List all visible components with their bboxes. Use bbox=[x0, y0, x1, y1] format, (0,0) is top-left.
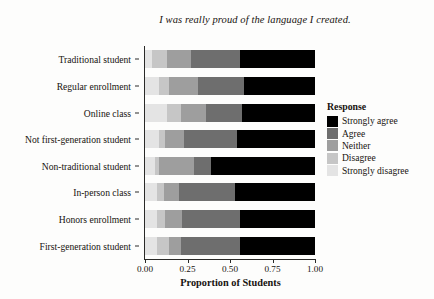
legend-swatch bbox=[327, 165, 338, 176]
x-tick-mark bbox=[230, 260, 231, 263]
bar-segment bbox=[159, 130, 166, 148]
x-tick-label: 0.25 bbox=[179, 264, 195, 274]
y-tick-mark bbox=[135, 85, 139, 86]
y-tick-mark bbox=[135, 139, 139, 140]
y-tick-label: Regular enrollment bbox=[0, 80, 131, 91]
x-axis-ticks: 0.000.250.500.751.00 bbox=[145, 260, 316, 276]
bar-row bbox=[145, 210, 315, 228]
bar-row bbox=[145, 104, 315, 122]
bar-row bbox=[145, 157, 315, 175]
bar-segment bbox=[165, 130, 184, 148]
bar-segment bbox=[240, 210, 315, 228]
y-tick-label: First-generation student bbox=[0, 240, 131, 251]
legend-swatch bbox=[327, 140, 338, 151]
bar-segment bbox=[145, 157, 155, 175]
x-tick-mark bbox=[315, 260, 316, 263]
legend-item[interactable]: Disagree bbox=[327, 152, 433, 164]
x-tick-label: 1.00 bbox=[307, 264, 323, 274]
y-tick-mark bbox=[135, 192, 139, 193]
bar-segment bbox=[164, 183, 179, 201]
legend-label: Neither bbox=[342, 141, 371, 151]
bar-segment bbox=[182, 210, 240, 228]
y-tick-label: Honors enrollment bbox=[0, 214, 131, 225]
bar-segment bbox=[235, 183, 315, 201]
bar-row bbox=[145, 130, 315, 148]
x-tick-label: 0.50 bbox=[222, 264, 238, 274]
legend: Response Strongly agreeAgreeNeitherDisag… bbox=[327, 101, 433, 177]
bar-segment bbox=[145, 104, 167, 122]
legend-swatch bbox=[327, 116, 338, 127]
bar-segment bbox=[159, 77, 169, 95]
bar-segment bbox=[181, 104, 207, 122]
bar-segment bbox=[157, 237, 169, 255]
bar-segment bbox=[145, 77, 159, 95]
bar-segment bbox=[240, 237, 315, 255]
x-tick-mark bbox=[273, 260, 274, 263]
plot-area bbox=[145, 46, 315, 259]
y-tick-mark bbox=[135, 219, 139, 220]
y-tick-mark bbox=[135, 165, 139, 166]
bar-segment bbox=[181, 237, 241, 255]
bar-segment bbox=[167, 50, 191, 68]
bar-segment bbox=[145, 183, 157, 201]
bar-row bbox=[145, 50, 315, 68]
legend-item[interactable]: Strongly disagree bbox=[327, 165, 433, 177]
bar-segment bbox=[191, 50, 240, 68]
legend-swatch bbox=[327, 153, 338, 164]
y-tick-label: Non-traditional student bbox=[0, 160, 131, 171]
bar-segment bbox=[169, 237, 181, 255]
bar-segment bbox=[145, 210, 157, 228]
bar-segment bbox=[157, 210, 166, 228]
y-tick-label: Traditional student bbox=[0, 54, 131, 65]
bar-row bbox=[145, 77, 315, 95]
y-tick-label: Online class bbox=[0, 107, 131, 118]
x-axis-title: Proportion of Students bbox=[145, 277, 316, 288]
bar-segment bbox=[179, 183, 235, 201]
y-tick-label: In-person class bbox=[0, 187, 131, 198]
x-tick-mark bbox=[188, 260, 189, 263]
bar-segment bbox=[169, 77, 198, 95]
y-tick-mark bbox=[135, 112, 139, 113]
legend-item[interactable]: Strongly agree bbox=[327, 115, 433, 127]
bar-segment bbox=[240, 50, 315, 68]
x-tick-mark bbox=[145, 260, 146, 263]
legend-swatch bbox=[327, 128, 338, 139]
bar-segment bbox=[145, 237, 157, 255]
bar-segment bbox=[157, 183, 164, 201]
y-tick-mark bbox=[135, 59, 139, 60]
legend-label: Disagree bbox=[342, 153, 376, 163]
bar-segment bbox=[206, 104, 242, 122]
bar-segment bbox=[211, 157, 315, 175]
bar-segment bbox=[194, 157, 211, 175]
bar-segment bbox=[242, 104, 315, 122]
bar-row bbox=[145, 237, 315, 255]
legend-title: Response bbox=[327, 101, 433, 112]
bar-segment bbox=[167, 104, 181, 122]
bar-segment bbox=[152, 50, 167, 68]
bar-segment bbox=[198, 77, 244, 95]
chart-title: I was really proud of the language I cre… bbox=[140, 14, 370, 25]
legend-label: Strongly agree bbox=[342, 116, 398, 126]
bar-segment bbox=[237, 130, 315, 148]
bar-segment bbox=[244, 77, 315, 95]
y-tick-label: Not first-generation student bbox=[0, 134, 131, 145]
legend-item[interactable]: Agree bbox=[327, 127, 433, 139]
x-tick-label: 0.75 bbox=[264, 264, 280, 274]
bar-segment bbox=[159, 157, 195, 175]
y-axis-labels: Traditional studentRegular enrollmentOnl… bbox=[0, 46, 140, 259]
x-tick-label: 0.00 bbox=[137, 264, 153, 274]
bar-segment bbox=[165, 210, 182, 228]
bar-row bbox=[145, 183, 315, 201]
bar-segment bbox=[145, 130, 159, 148]
bar-segment bbox=[145, 50, 152, 68]
legend-label: Agree bbox=[342, 129, 365, 139]
bar-segment bbox=[184, 130, 237, 148]
legend-item[interactable]: Neither bbox=[327, 140, 433, 152]
legend-items: Strongly agreeAgreeNeitherDisagreeStrong… bbox=[327, 115, 433, 177]
legend-label: Strongly disagree bbox=[342, 166, 409, 176]
y-tick-mark bbox=[135, 245, 139, 246]
chart-figure: I was really proud of the language I cre… bbox=[0, 0, 434, 299]
